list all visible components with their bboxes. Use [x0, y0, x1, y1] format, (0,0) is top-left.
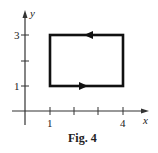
y-axis-label: y: [29, 7, 35, 19]
arrow-right-icon: [79, 82, 88, 90]
y-axis-arrow-icon: [23, 10, 28, 18]
arrow-left-icon: [84, 31, 93, 39]
x-axis-arrow-icon: [141, 109, 149, 114]
figure-caption: Fig. 4: [68, 131, 97, 145]
y-tick-label-1: 1: [14, 80, 20, 92]
figure-diagram: y x 3 1 1 4 Fig. 4: [0, 0, 158, 153]
x-axis-label: x: [142, 114, 148, 126]
x-tick-label-4: 4: [120, 117, 126, 129]
rectangular-path: [50, 35, 123, 86]
y-tick-label-3: 3: [14, 29, 20, 41]
x-tick-label-1: 1: [47, 117, 53, 129]
